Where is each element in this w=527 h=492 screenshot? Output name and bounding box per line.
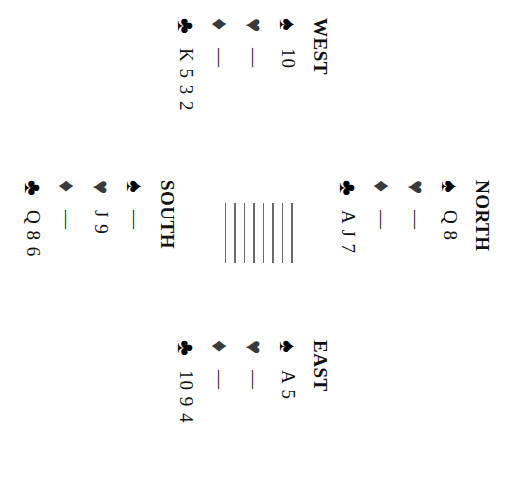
table-center-lines: [225, 203, 293, 263]
hand-label: WEST: [305, 18, 335, 111]
hand-east: EAST ♠ A 5 ♥ — ♦ — ♣ 10 9 4: [169, 340, 335, 424]
club-cards: K 5 3 2: [169, 48, 203, 111]
suit-row-diamonds: ♦ —: [50, 180, 84, 257]
suit-row-diamonds: ♦ —: [365, 180, 399, 254]
club-cards: 10 9 4: [169, 370, 203, 424]
diamond-icon: ♦: [203, 340, 237, 370]
spade-icon: ♠: [271, 340, 305, 370]
club-cards: Q 8 6: [16, 210, 50, 257]
heart-cards: J 9: [84, 210, 118, 235]
table-line: [273, 203, 275, 263]
suit-row-hearts: ♥ —: [237, 340, 271, 424]
suit-row-spades: ♠ —: [118, 180, 152, 257]
diamond-icon: ♦: [203, 18, 237, 48]
suit-row-clubs: ♣ A J 7: [331, 180, 365, 254]
heart-icon: ♥: [237, 340, 271, 370]
spade-icon: ♠: [118, 180, 152, 210]
hand-label: SOUTH: [152, 180, 182, 257]
suit-row-spades: ♠ A 5: [271, 340, 305, 424]
hand-label: NORTH: [467, 180, 497, 254]
table-line: [292, 203, 294, 263]
table-line: [225, 203, 227, 263]
suit-row-spades: ♠ 10: [271, 18, 305, 111]
suit-row-hearts: ♥ —: [237, 18, 271, 111]
suit-row-hearts: ♥ —: [399, 180, 433, 254]
heart-cards: —: [237, 48, 271, 68]
hand-south: SOUTH ♠ — ♥ J 9 ♦ — ♣ Q 8 6: [16, 180, 182, 257]
heart-icon: ♥: [237, 18, 271, 48]
spade-cards: A 5: [271, 370, 305, 400]
table-line: [244, 203, 246, 263]
diamond-cards: —: [50, 210, 84, 230]
diamond-icon: ♦: [50, 180, 84, 210]
heart-cards: —: [237, 370, 271, 390]
hand-label: EAST: [305, 340, 335, 424]
spade-cards: —: [118, 210, 152, 230]
table-line: [282, 203, 284, 263]
table-line: [235, 203, 237, 263]
suit-row-diamonds: ♦ —: [203, 340, 237, 424]
heart-icon: ♥: [84, 180, 118, 210]
suit-row-clubs: ♣ K 5 3 2: [169, 18, 203, 111]
club-icon: ♣: [169, 18, 203, 48]
spade-cards: Q 8: [433, 210, 467, 241]
spade-icon: ♠: [271, 18, 305, 48]
diamond-cards: —: [203, 48, 237, 68]
suit-row-diamonds: ♦ —: [203, 18, 237, 111]
heart-cards: —: [399, 210, 433, 230]
club-icon: ♣: [331, 180, 365, 210]
suit-row-hearts: ♥ J 9: [84, 180, 118, 257]
suit-row-clubs: ♣ 10 9 4: [169, 340, 203, 424]
table-line: [263, 203, 265, 263]
heart-icon: ♥: [399, 180, 433, 210]
suit-row-spades: ♠ Q 8: [433, 180, 467, 254]
diamond-cards: —: [365, 210, 399, 230]
diamond-cards: —: [203, 370, 237, 390]
table-line: [254, 203, 256, 263]
club-icon: ♣: [169, 340, 203, 370]
club-icon: ♣: [16, 180, 50, 210]
hand-west: WEST ♠ 10 ♥ — ♦ — ♣ K 5 3 2: [169, 18, 335, 111]
suit-row-clubs: ♣ Q 8 6: [16, 180, 50, 257]
bridge-deal-diagram: NORTH ♠ Q 8 ♥ — ♦ — ♣ A J 7 WEST ♠ 10 ♥ …: [0, 0, 527, 492]
spade-icon: ♠: [433, 180, 467, 210]
hand-north: NORTH ♠ Q 8 ♥ — ♦ — ♣ A J 7: [331, 180, 497, 254]
diamond-icon: ♦: [365, 180, 399, 210]
club-cards: A J 7: [331, 210, 365, 254]
spade-cards: 10: [271, 48, 305, 69]
